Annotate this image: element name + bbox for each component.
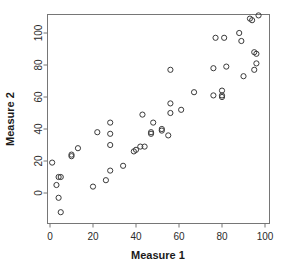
y-axis-title: Measure 2 [4, 92, 16, 146]
x-tick-label-0: 0 [47, 231, 53, 242]
y-tick-label-40: 40 [33, 123, 44, 135]
x-axis-title: Measure 1 [131, 249, 185, 261]
x-tick-label-20: 20 [87, 231, 99, 242]
x-tick-label-100: 100 [257, 231, 274, 242]
y-tick-label-0: 0 [33, 190, 44, 196]
x-tick-label-80: 80 [216, 231, 228, 242]
x-tick-label-40: 40 [130, 231, 142, 242]
y-tick-label-60: 60 [33, 91, 44, 103]
plot-canvas: 020406080100 020406080100 Measure 1 Meas… [0, 0, 292, 271]
scatter-plot-figure: 020406080100 020406080100 Measure 1 Meas… [0, 0, 292, 271]
y-tick-label-80: 80 [33, 59, 44, 71]
y-tick-label-100: 100 [33, 24, 44, 41]
y-tick-label-20: 20 [33, 155, 44, 167]
x-tick-label-60: 60 [173, 231, 185, 242]
